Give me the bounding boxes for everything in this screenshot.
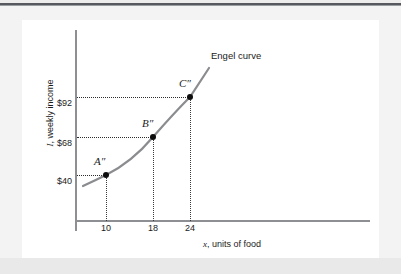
engel-curve-label: Engel curve: [211, 50, 261, 61]
y-tick-92-label: $92: [57, 98, 72, 108]
figure-container: A″ B″ C″ Engel curve $92 $68 $40 10 18 2…: [0, 0, 401, 274]
x-axis-title: x, units of food: [132, 239, 332, 249]
y-tick-68-label: $68: [57, 138, 72, 148]
data-point-label-b: B″: [142, 117, 153, 129]
chart-panel: A″ B″ C″ Engel curve $92 $68 $40 10 18 2…: [22, 20, 379, 258]
data-point-c: [187, 94, 193, 100]
data-point-label-c: C″: [179, 77, 191, 89]
x-tick-10: 10: [94, 223, 118, 233]
x-tick-18: 18: [141, 223, 165, 233]
data-point-b: [150, 134, 156, 140]
data-point-a: [103, 172, 109, 178]
x-tick-24: 24: [178, 223, 202, 233]
y-axis-title-text: , weekly income: [45, 79, 55, 143]
y-axis-title: I, weekly income: [45, 58, 55, 168]
y-tick-40: $40: [30, 170, 72, 188]
data-point-label-a: A″: [94, 155, 105, 167]
y-tick-40-label: $40: [57, 176, 72, 186]
plot-area: A″ B″ C″ Engel curve $92 $68 $40 10 18 2…: [22, 20, 379, 258]
x-axis-title-text: , units of food: [207, 239, 261, 249]
bottom-band: [0, 258, 401, 274]
